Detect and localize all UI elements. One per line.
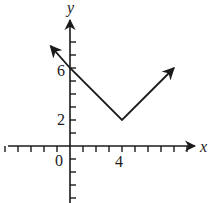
- x-tick-label-4: 4: [115, 153, 123, 170]
- y-axis: [70, 20, 76, 203]
- x-axis: [5, 146, 195, 152]
- y-axis-ticks: [70, 42, 76, 203]
- x-axis-ticks: [5, 146, 187, 152]
- function-curve: [51, 46, 175, 120]
- absolute-value-graph: y x 0 4 2 6: [0, 0, 213, 203]
- x-axis-label: x: [199, 138, 207, 155]
- y-axis-label: y: [65, 0, 75, 17]
- y-tick-label-2: 2: [57, 111, 65, 128]
- origin-label: 0: [55, 152, 63, 169]
- y-tick-label-6: 6: [57, 62, 65, 79]
